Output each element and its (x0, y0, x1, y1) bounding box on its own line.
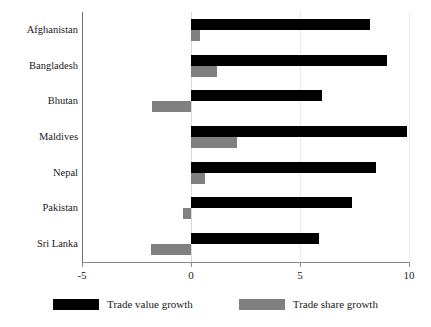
bar-nepal-share (191, 173, 205, 184)
category-axis-labels: AfghanistanBangladeshBhutanMaldivesNepal… (0, 12, 78, 262)
category-label-pakistan: Pakistan (0, 202, 78, 214)
legend-swatch-icon-share (239, 299, 285, 310)
bar-afghanistan-share (191, 30, 200, 41)
legend-item-trade-value-growth: Trade value growth (53, 298, 193, 311)
bar-maldives-share (191, 137, 237, 148)
plot-area (82, 12, 409, 262)
bar-chart: AfghanistanBangladeshBhutanMaldivesNepal… (0, 0, 431, 327)
gridline-5 (300, 12, 301, 262)
category-label-bhutan: Bhutan (0, 95, 78, 107)
bar-nepal-value (191, 162, 376, 173)
bar-pakistan-share (183, 208, 191, 219)
tick-label-0: 0 (171, 269, 211, 281)
bar-afghanistan-value (191, 19, 370, 30)
gridline-10 (409, 12, 410, 262)
tick-label-5: 5 (280, 269, 320, 281)
tick-mark-10 (409, 262, 410, 267)
chart-legend: Trade value growth Trade share growth (0, 292, 431, 316)
tick-mark-0 (191, 262, 192, 267)
legend-swatch-icon-value (53, 299, 99, 310)
bar-bhutan-share (152, 101, 191, 112)
tick-label-10: 10 (389, 269, 429, 281)
bar-pakistan-value (191, 197, 352, 208)
tick-label--5: -5 (62, 269, 102, 281)
bar-sri-lanka-share (151, 244, 191, 255)
category-label-bangladesh: Bangladesh (0, 60, 78, 72)
bar-sri-lanka-value (191, 233, 319, 244)
category-label-maldives: Maldives (0, 131, 78, 143)
tick-mark--5 (82, 262, 83, 267)
bar-bangladesh-value (191, 55, 387, 66)
legend-label-value: Trade value growth (107, 298, 193, 311)
bar-maldives-value (191, 126, 407, 137)
category-label-sri-lanka: Sri Lanka (0, 238, 78, 250)
bar-bangladesh-share (191, 66, 217, 77)
bar-bhutan-value (191, 90, 322, 101)
category-label-afghanistan: Afghanistan (0, 24, 78, 36)
tick-mark-5 (300, 262, 301, 267)
category-axis-line (82, 12, 83, 262)
legend-label-share: Trade share growth (293, 298, 378, 311)
category-label-nepal: Nepal (0, 167, 78, 179)
value-axis-line (82, 262, 410, 263)
legend-item-trade-share-growth: Trade share growth (239, 298, 378, 311)
